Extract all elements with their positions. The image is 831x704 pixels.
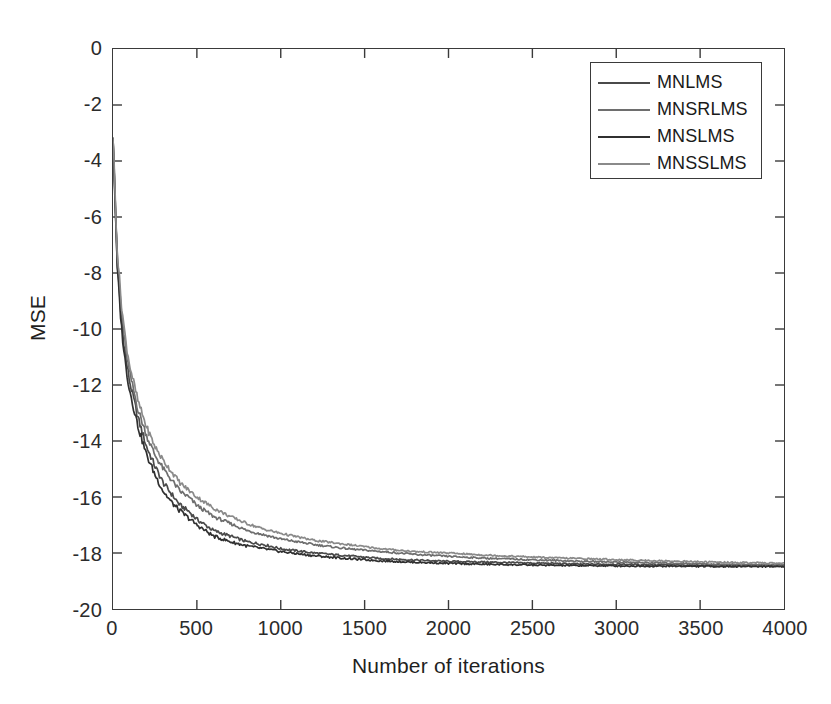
x-tick-label: 500 bbox=[179, 617, 213, 640]
legend-item-label: MNSLMS bbox=[657, 126, 735, 147]
x-axis-title: Number of iterations bbox=[112, 654, 785, 678]
x-tick-label: 1000 bbox=[258, 617, 303, 640]
series-line-mnsslms bbox=[113, 139, 784, 564]
legend-item-label: MNLMS bbox=[657, 72, 723, 93]
y-axis-tick-labels: 0-2-4-6-8-10-12-14-16-18-20 bbox=[38, 48, 102, 610]
x-tick-label: 1500 bbox=[342, 617, 387, 640]
series-line-mnlms bbox=[113, 139, 784, 566]
y-tick-label: -6 bbox=[84, 205, 102, 228]
y-tick-label: -16 bbox=[72, 486, 102, 509]
y-tick-label: 0 bbox=[91, 37, 102, 60]
legend-item-label: MNSSLMS bbox=[657, 153, 747, 174]
y-tick-label: -4 bbox=[84, 149, 102, 172]
x-tick-label: 4000 bbox=[762, 617, 807, 640]
legend-item-mnslms[interactable]: MNSLMS bbox=[591, 123, 761, 150]
y-tick-label: -8 bbox=[84, 261, 102, 284]
x-tick-label: 3500 bbox=[678, 617, 723, 640]
y-tick-label: -2 bbox=[84, 93, 102, 116]
y-tick-label: -10 bbox=[72, 318, 102, 341]
legend-item-label: MNSRLMS bbox=[657, 99, 748, 120]
chart-legend: MNLMSMNSRLMSMNSLMSMNSSLMS bbox=[590, 62, 762, 179]
x-tick-label: 2500 bbox=[510, 617, 555, 640]
legend-item-mnsrlms[interactable]: MNSRLMS bbox=[591, 96, 761, 123]
legend-item-mnsslms[interactable]: MNSSLMS bbox=[591, 150, 761, 177]
y-tick-label: -14 bbox=[72, 430, 102, 453]
series-line-mnslms bbox=[113, 138, 784, 567]
legend-line-swatch-icon bbox=[598, 163, 650, 165]
legend-item-mnlms[interactable]: MNLMS bbox=[591, 69, 761, 96]
x-tick-label: 3000 bbox=[594, 617, 639, 640]
x-axis-tick-labels: 05001000150020002500300035004000 bbox=[112, 617, 785, 647]
legend-line-swatch-icon bbox=[598, 109, 650, 111]
figure-canvas: MSE 0-2-4-6-8-10-12-14-16-18-20 05001000… bbox=[0, 0, 831, 704]
x-tick-label: 2000 bbox=[426, 617, 471, 640]
series-line-mnsrlms bbox=[113, 141, 784, 566]
legend-line-swatch-icon bbox=[598, 82, 650, 84]
y-tick-label: -12 bbox=[72, 374, 102, 397]
x-tick-label: 0 bbox=[106, 617, 117, 640]
legend-line-swatch-icon bbox=[598, 136, 650, 138]
y-tick-label: -20 bbox=[72, 599, 102, 622]
y-tick-label: -18 bbox=[72, 542, 102, 565]
